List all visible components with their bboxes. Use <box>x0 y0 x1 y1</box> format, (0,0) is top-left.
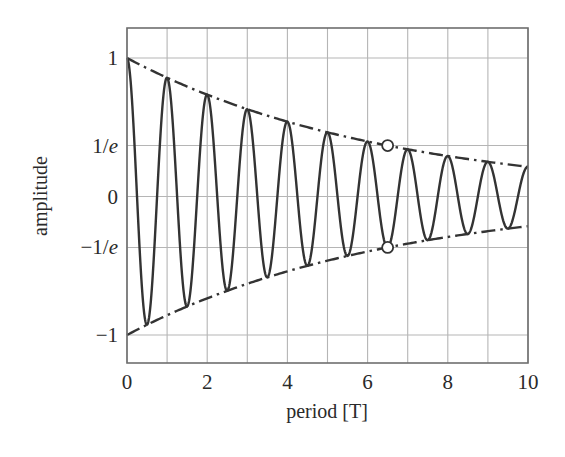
x-axis-tick-labels: 0246810 <box>122 370 539 394</box>
y-tick-label: 1/e <box>92 134 118 158</box>
x-tick-label: 8 <box>443 370 454 394</box>
open-circle-marker <box>382 242 393 253</box>
y-tick-label: 1 <box>108 46 119 70</box>
y-tick-label: −1/e <box>80 235 118 259</box>
x-tick-label: 2 <box>202 370 213 394</box>
x-tick-label: 10 <box>518 370 539 394</box>
y-axis-label: amplitude <box>29 156 52 236</box>
grid-lines <box>127 28 528 363</box>
damped-oscillation-chart: 11/e0−1/e−1 0246810 period [T] amplitude <box>0 0 565 457</box>
x-tick-label: 4 <box>282 370 293 394</box>
y-tick-label: −1 <box>96 323 118 347</box>
x-axis-label: period [T] <box>286 400 368 423</box>
x-tick-label: 0 <box>122 370 133 394</box>
y-axis-tick-labels: 11/e0−1/e−1 <box>80 46 118 347</box>
y-tick-label: 0 <box>108 185 119 209</box>
open-circle-marker <box>382 140 393 151</box>
x-tick-label: 6 <box>362 370 373 394</box>
